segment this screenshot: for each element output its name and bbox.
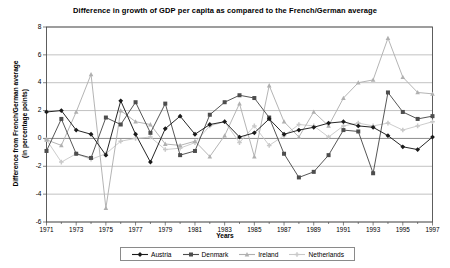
legend-marker-ireland-icon (238, 250, 256, 259)
datapoint-ireland-1975 (104, 206, 109, 210)
datapoint-denmark-1980 (178, 153, 182, 157)
legend-symbol-austria-icon (138, 252, 143, 257)
datapoint-ireland-1995 (401, 75, 406, 79)
legend-marker-netherlands-icon (288, 250, 306, 259)
legend-item-austria[interactable]: Austria (131, 250, 172, 259)
datapoint-denmark-1974 (89, 156, 93, 160)
legend-label-denmark: Denmark (202, 251, 229, 258)
datapoint-denmark-1972 (59, 117, 63, 121)
legend-marker-austria-icon (131, 250, 149, 259)
datapoint-ireland-1985 (252, 154, 257, 158)
gdp-growth-difference-chart: Difference in growth of GDP per capita a… (0, 0, 450, 268)
datapoint-denmark-1971 (45, 149, 49, 153)
datapoint-denmark-1984 (238, 93, 242, 97)
legend-symbol-netherlands-icon (295, 252, 300, 257)
data-series-group (44, 36, 435, 210)
datapoint-ireland-1984 (237, 101, 242, 105)
datapoint-netherlands-1996 (415, 124, 420, 129)
series-line-austria (47, 101, 433, 162)
plot-area (0, 0, 450, 268)
chart-legend: AustriaDenmarkIrelandNetherlands (120, 247, 355, 261)
legend-label-netherlands: Netherlands (308, 251, 344, 258)
datapoint-denmark-1973 (74, 152, 78, 156)
datapoint-denmark-1994 (386, 90, 390, 94)
datapoint-denmark-1987 (282, 152, 286, 156)
legend-item-denmark[interactable]: Denmark (182, 250, 229, 259)
datapoint-denmark-1996 (416, 117, 420, 121)
legend-marker-denmark-icon (182, 250, 200, 259)
datapoint-austria-1988 (296, 128, 301, 133)
legend-item-netherlands[interactable]: Netherlands (288, 250, 344, 259)
datapoint-ireland-1974 (89, 72, 94, 76)
datapoint-denmark-1988 (297, 175, 301, 179)
datapoint-austria-1991 (341, 119, 346, 124)
datapoint-netherlands-1995 (401, 128, 406, 133)
datapoint-denmark-1977 (134, 100, 138, 104)
datapoint-denmark-1991 (341, 128, 345, 132)
datapoint-denmark-1990 (327, 153, 331, 157)
legend-symbol-denmark-icon (189, 252, 193, 256)
datapoint-denmark-1992 (356, 129, 360, 133)
datapoint-denmark-1975 (104, 116, 108, 120)
datapoint-netherlands-1994 (386, 121, 391, 126)
legend-label-austria: Austria (151, 251, 172, 258)
series-line-ireland (47, 38, 433, 208)
datapoint-denmark-1985 (252, 96, 256, 100)
datapoint-denmark-1982 (208, 113, 212, 117)
datapoint-ireland-1993 (371, 78, 376, 82)
series-ireland (44, 36, 435, 210)
datapoint-denmark-1997 (431, 114, 435, 118)
datapoint-austria-1978 (148, 160, 153, 165)
datapoint-ireland-1994 (386, 36, 391, 40)
datapoint-denmark-1989 (312, 170, 316, 174)
datapoint-ireland-1987 (282, 119, 287, 123)
datapoint-denmark-1995 (401, 110, 405, 114)
datapoint-ireland-1989 (311, 110, 316, 114)
datapoint-denmark-1978 (148, 131, 152, 135)
legend-item-ireland[interactable]: Ireland (238, 250, 278, 259)
datapoint-ireland-1983 (222, 133, 227, 137)
datapoint-denmark-1976 (119, 123, 123, 127)
datapoint-denmark-1979 (163, 102, 167, 106)
legend-label-ireland: Ireland (258, 251, 278, 258)
datapoint-netherlands-1997 (430, 119, 435, 124)
datapoint-ireland-1986 (267, 83, 272, 87)
datapoint-austria-1976 (118, 98, 123, 103)
datapoint-austria-1992 (356, 123, 361, 128)
datapoint-austria-1977 (133, 132, 138, 137)
datapoint-denmark-1981 (193, 149, 197, 153)
datapoint-denmark-1983 (223, 100, 227, 104)
datapoint-denmark-1993 (371, 171, 375, 175)
datapoint-ireland-1973 (74, 110, 79, 114)
